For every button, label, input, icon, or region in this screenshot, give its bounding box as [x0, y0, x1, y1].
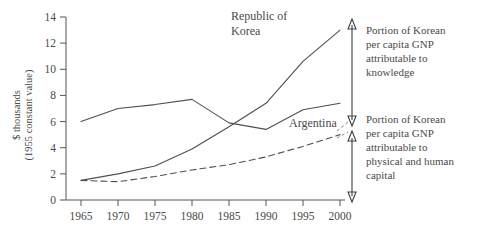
- y-tick-label: 14: [45, 11, 57, 23]
- x-tick-label: 1975: [144, 210, 167, 222]
- y-axis-title-line1: $ thousands: [11, 90, 22, 140]
- y-axis-title-line2: (1955 constant value): [23, 69, 35, 160]
- bracket-knowledge: [348, 19, 356, 126]
- annotation-capital-line4: physical and human: [366, 155, 454, 167]
- series-label-korea-line1: Republic of: [231, 9, 287, 23]
- chart-figure: 0 2 4 6 8 10 12 14 $ thousands (1955 con…: [0, 0, 481, 236]
- series-label-korea-line2: Korea: [231, 24, 261, 38]
- x-tick-label: 1965: [70, 210, 93, 222]
- y-tick-label: 8: [50, 89, 56, 101]
- leader-line-knowledge: [337, 122, 348, 131]
- x-tick-label: 1995: [292, 210, 315, 222]
- line-chart-svg: 0 2 4 6 8 10 12 14 $ thousands (1955 con…: [0, 0, 481, 236]
- annotation-physical-human-capital: Portion of Korean per capita GNP attribu…: [366, 113, 454, 181]
- series-label-argentina: Argentina: [289, 116, 337, 130]
- x-tick-label: 1980: [181, 210, 204, 222]
- x-axis-ticks: [81, 200, 340, 206]
- y-tick-label: 0: [50, 194, 56, 206]
- y-tick-label: 12: [45, 37, 57, 49]
- x-axis-tick-labels: 1965 1970 1975 1980 1985 1990 1995 2000: [70, 210, 352, 222]
- bracket-physical-human-capital: [348, 131, 356, 202]
- y-axis-ticks: [60, 17, 66, 200]
- x-tick-label: 1985: [218, 210, 241, 222]
- series-label-republic-of-korea: Republic of Korea: [231, 9, 287, 38]
- y-tick-label: 6: [50, 116, 56, 128]
- annotation-knowledge-line4: knowledge: [366, 66, 414, 78]
- series-line-physical-human-capital: [81, 135, 340, 182]
- annotation-capital-line5: capital: [366, 169, 395, 181]
- annotation-knowledge-line1: Portion of Korean: [366, 24, 446, 36]
- annotation-capital-line1: Portion of Korean: [366, 113, 446, 125]
- annotation-knowledge: Portion of Korean per capita GNP attribu…: [366, 24, 446, 78]
- y-axis-title: $ thousands (1955 constant value): [11, 69, 35, 160]
- y-tick-label: 4: [50, 142, 56, 154]
- y-tick-label: 10: [45, 63, 57, 75]
- annotation-knowledge-line3: attributable to: [366, 52, 428, 64]
- x-tick-label: 1990: [255, 210, 278, 222]
- y-axis-tick-labels: 0 2 4 6 8 10 12 14: [45, 11, 57, 206]
- annotation-capital-line3: attributable to: [366, 141, 428, 153]
- x-tick-label: 2000: [329, 210, 352, 222]
- annotation-capital-line2: per capita GNP: [366, 127, 434, 139]
- annotation-knowledge-line2: per capita GNP: [366, 38, 434, 50]
- series-line-republic-of-korea: [81, 30, 340, 180]
- x-tick-label: 1970: [107, 210, 130, 222]
- y-tick-label: 2: [50, 168, 56, 180]
